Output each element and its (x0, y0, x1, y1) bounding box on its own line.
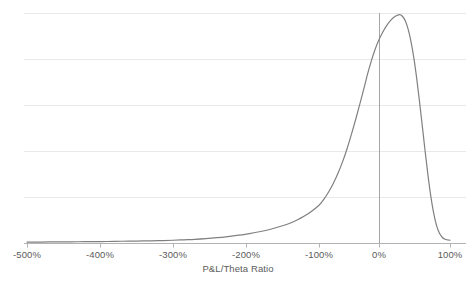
x-tick-label-1: -400% (86, 250, 114, 260)
x-tick-label-6: 100% (438, 250, 463, 260)
x-tick-label-2: -300% (159, 250, 187, 260)
x-tick-label-0: -500% (13, 250, 41, 260)
data-series-group (27, 15, 450, 242)
horizontal-gridlines (24, 14, 466, 198)
chart-container: -500%-400%-300%-200%-100%0%100% P&L/Thet… (0, 0, 476, 292)
x-tick-label-5: 0% (372, 250, 386, 260)
x-tick-label-4: -100% (305, 250, 333, 260)
x-tick-label-3: -200% (232, 250, 260, 260)
series-line-0 (27, 15, 450, 242)
x-axis-tick-marks (28, 244, 451, 248)
x-axis-title: P&L/Theta Ratio (0, 264, 476, 274)
